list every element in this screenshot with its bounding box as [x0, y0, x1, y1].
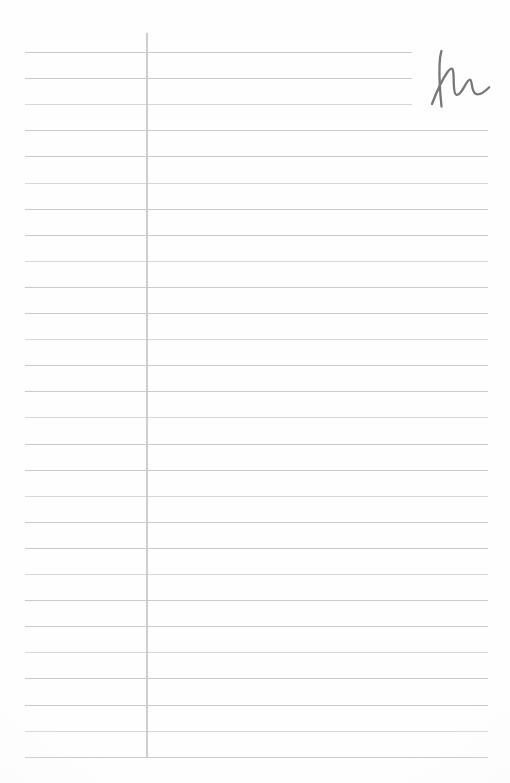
- ruled-line: [25, 548, 488, 549]
- ruled-line: [25, 470, 488, 471]
- ruled-line: [25, 339, 488, 340]
- ruled-line: [25, 183, 488, 184]
- ruled-line: [25, 104, 412, 105]
- ruled-line: [25, 235, 488, 236]
- notebook-page: [0, 0, 510, 783]
- ruled-line: [25, 731, 488, 732]
- ruled-line: [25, 496, 488, 497]
- ruled-line: [25, 313, 488, 314]
- ruled-line: [25, 417, 488, 418]
- ruled-line: [25, 391, 488, 392]
- ruled-line: [25, 678, 488, 679]
- margin-rule-vertical: [146, 33, 148, 758]
- ruled-line: [25, 52, 412, 53]
- ruled-line: [25, 705, 488, 706]
- ruled-line: [25, 209, 488, 210]
- ruled-line: [25, 600, 488, 601]
- ruled-line: [25, 287, 488, 288]
- ruled-line: [25, 522, 488, 523]
- ruled-line: [25, 626, 488, 627]
- ruled-line: [25, 652, 488, 653]
- ruled-line: [25, 444, 488, 445]
- ruled-line: [25, 156, 488, 157]
- ruled-line: [25, 574, 488, 575]
- ruled-line: [25, 130, 488, 131]
- ruled-line: [25, 757, 488, 758]
- ruled-line: [25, 365, 488, 366]
- ruled-line: [25, 261, 488, 262]
- ruled-line: [25, 78, 412, 79]
